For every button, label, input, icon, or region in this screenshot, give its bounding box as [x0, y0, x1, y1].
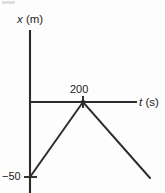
position-time-graph-figure: x (m) t (s) 200 −50: [0, 0, 165, 193]
peak-point-marker: [81, 100, 85, 104]
position-curve: [30, 102, 150, 178]
y-axis-unit: (m): [23, 13, 43, 25]
x-axis-label: t (s): [139, 97, 159, 109]
peak-value-label: 200: [70, 84, 88, 95]
y-axis-label: x (m): [17, 14, 43, 26]
y-min-value-label: −50: [2, 171, 21, 182]
x-axis-unit: (s): [142, 96, 159, 108]
